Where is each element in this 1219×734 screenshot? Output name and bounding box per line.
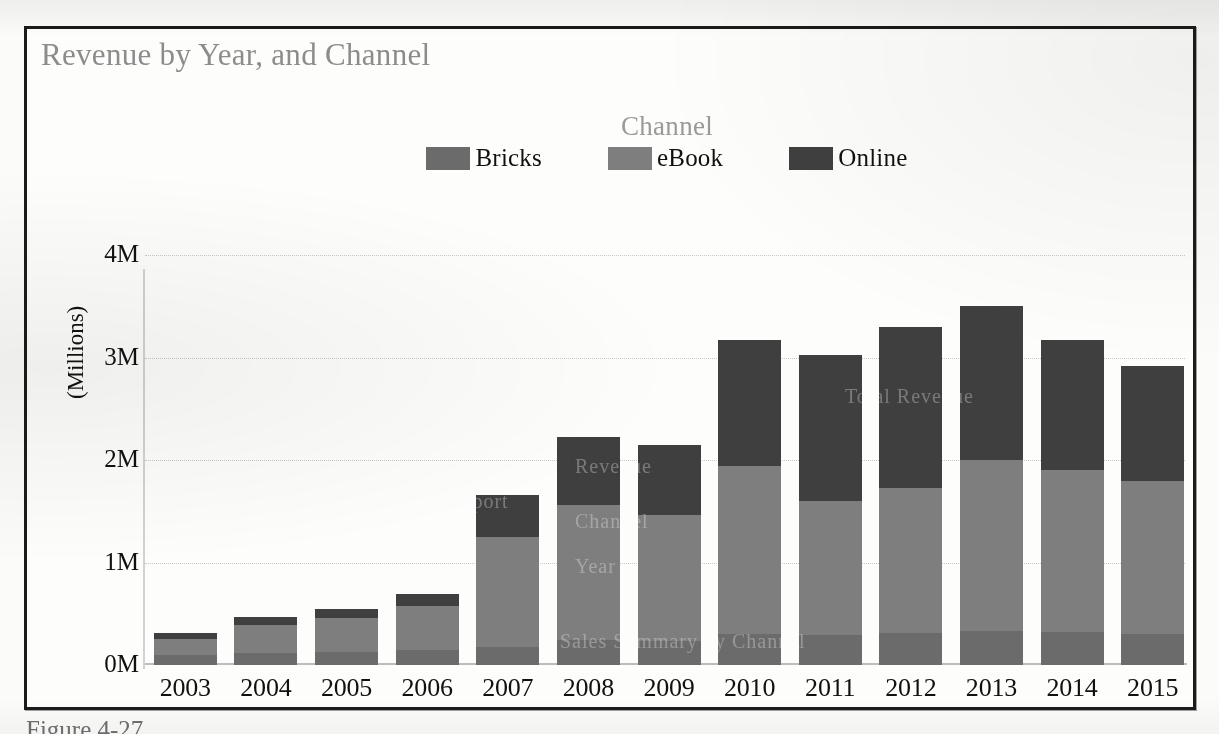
bar-segment-ebook[interactable] [718, 466, 781, 634]
y-tick-label: 0M [59, 650, 139, 678]
figure-caption: Figure 4-27. [26, 716, 150, 734]
legend-item-ebook[interactable]: eBook [608, 144, 723, 172]
bar-group-2010[interactable] [718, 255, 781, 665]
legend-swatch-icon [789, 147, 833, 170]
bar-segment-bricks[interactable] [718, 634, 781, 665]
bar-segment-bricks[interactable] [396, 650, 459, 665]
bar-group-2015[interactable] [1121, 255, 1184, 665]
bar-segment-bricks[interactable] [879, 633, 942, 665]
bar-group-2007[interactable] [476, 255, 539, 665]
bar-segment-ebook[interactable] [396, 606, 459, 650]
legend-swatch-icon [608, 147, 652, 170]
bar-segment-bricks[interactable] [1121, 634, 1184, 665]
bar-segment-online[interactable] [315, 609, 378, 618]
bar-segment-ebook[interactable] [960, 460, 1023, 631]
bar-segment-bricks[interactable] [476, 647, 539, 665]
plot-area: 0M1M2M3M4M Sales ReportTotal RevenueReve… [145, 255, 1193, 665]
y-tick-label: 1M [59, 548, 139, 576]
bar-segment-online[interactable] [154, 633, 217, 639]
legend-title: Channel [357, 111, 977, 142]
bar-segment-online[interactable] [638, 445, 701, 516]
bar-segment-bricks[interactable] [315, 652, 378, 665]
bar-segment-ebook[interactable] [315, 618, 378, 652]
x-tick-label: 2009 [632, 673, 707, 703]
bar-group-2003[interactable] [154, 255, 217, 665]
chart-title: Revenue by Year, and Channel [41, 37, 430, 73]
bar-segment-ebook[interactable] [638, 515, 701, 641]
bar-segment-online[interactable] [1041, 340, 1104, 470]
bars-container [145, 255, 1193, 665]
bar-segment-bricks[interactable] [799, 635, 862, 665]
y-tick-label: 2M [59, 445, 139, 473]
x-tick-label: 2014 [1035, 673, 1110, 703]
legend-label: eBook [657, 144, 723, 172]
bar-segment-online[interactable] [476, 495, 539, 537]
bar-segment-ebook[interactable] [234, 625, 297, 653]
x-tick-label: 2013 [954, 673, 1029, 703]
bar-segment-bricks[interactable] [960, 631, 1023, 665]
bar-group-2011[interactable] [799, 255, 862, 665]
x-tick-label: 2011 [793, 673, 868, 703]
legend-items: BrickseBookOnline [357, 144, 977, 172]
legend-item-bricks[interactable]: Bricks [426, 144, 541, 172]
bar-group-2009[interactable] [638, 255, 701, 665]
x-tick-label: 2015 [1115, 673, 1190, 703]
page-top-bleed: · · · · ·· · · · · ·· · · · ·· · · ·· · … [0, 0, 1219, 14]
bar-segment-bricks[interactable] [638, 641, 701, 665]
bar-segment-online[interactable] [718, 340, 781, 466]
bar-segment-online[interactable] [557, 437, 620, 505]
bar-group-2014[interactable] [1041, 255, 1104, 665]
bar-segment-ebook[interactable] [799, 501, 862, 635]
x-tick-label: 2004 [228, 673, 303, 703]
bar-segment-online[interactable] [960, 306, 1023, 460]
bar-segment-online[interactable] [879, 327, 942, 488]
legend-swatch-icon [426, 147, 470, 170]
x-tick-label: 2007 [470, 673, 545, 703]
bar-segment-online[interactable] [799, 355, 862, 501]
bar-segment-online[interactable] [1121, 366, 1184, 481]
chart-legend: Channel BrickseBookOnline [357, 111, 977, 172]
bar-segment-online[interactable] [396, 594, 459, 605]
page-bleed-text: · · · · ·· · · · · ·· · · · ·· · · ·· · … [70, 0, 454, 6]
bar-group-2008[interactable] [557, 255, 620, 665]
x-axis-labels: 2003200420052006200720082009201020112012… [145, 673, 1193, 713]
bar-group-2004[interactable] [234, 255, 297, 665]
bar-group-2005[interactable] [315, 255, 378, 665]
bar-segment-ebook[interactable] [476, 537, 539, 647]
bar-segment-bricks[interactable] [1041, 632, 1104, 665]
bar-segment-ebook[interactable] [557, 505, 620, 640]
x-tick-label: 2008 [551, 673, 626, 703]
x-tick-label: 2006 [390, 673, 465, 703]
bar-segment-ebook[interactable] [879, 488, 942, 634]
x-tick-label: 2005 [309, 673, 384, 703]
x-tick-label: 2010 [712, 673, 787, 703]
legend-label: Online [838, 144, 907, 172]
bar-segment-bricks[interactable] [154, 655, 217, 665]
bar-segment-ebook[interactable] [1041, 470, 1104, 632]
bar-segment-ebook[interactable] [154, 639, 217, 654]
bar-segment-bricks[interactable] [557, 640, 620, 665]
figure-frame: Revenue by Year, and Channel Channel Bri… [24, 26, 1196, 710]
bar-group-2012[interactable] [879, 255, 942, 665]
x-tick-label: 2003 [148, 673, 223, 703]
y-axis-title: (Millions) [63, 306, 89, 399]
bar-segment-online[interactable] [234, 617, 297, 625]
bar-group-2006[interactable] [396, 255, 459, 665]
bar-group-2013[interactable] [960, 255, 1023, 665]
legend-item-online[interactable]: Online [789, 144, 907, 172]
x-tick-label: 2012 [873, 673, 948, 703]
bar-segment-bricks[interactable] [234, 653, 297, 665]
y-tick-label: 4M [59, 240, 139, 268]
legend-label: Bricks [475, 144, 541, 172]
bar-segment-ebook[interactable] [1121, 481, 1184, 635]
